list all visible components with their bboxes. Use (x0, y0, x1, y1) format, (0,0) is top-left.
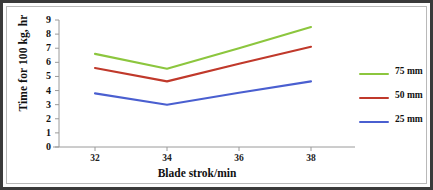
figure-inner-border: Time for 100 kg, hr Blade strok/min 0123… (6, 6, 427, 184)
data-series-group (95, 27, 311, 105)
legend-swatch-icon (359, 121, 389, 123)
chart-legend: 75 mm50 mm25 mm (357, 64, 433, 136)
legend-swatch-icon (359, 97, 389, 99)
figure-outer-border: Time for 100 kg, hr Blade strok/min 0123… (0, 0, 433, 190)
series-line-75-mm (95, 27, 311, 69)
series-line-50-mm (95, 47, 311, 82)
legend-item-50-mm: 50 mm (357, 88, 433, 112)
legend-label: 25 mm (395, 114, 423, 124)
legend-label: 50 mm (395, 90, 423, 100)
axis-lines (53, 20, 355, 151)
series-line-25-mm (95, 81, 311, 104)
legend-swatch-icon (359, 73, 389, 75)
legend-item-75-mm: 75 mm (357, 64, 433, 88)
line-chart: Time for 100 kg, hr Blade strok/min 0123… (7, 7, 433, 190)
legend-item-25-mm: 25 mm (357, 112, 433, 136)
legend-label: 75 mm (395, 66, 423, 76)
